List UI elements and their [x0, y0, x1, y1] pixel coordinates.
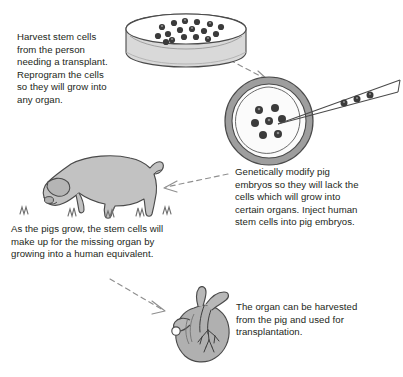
embryo-icon [225, 77, 313, 165]
caption-harvest-stem-cells: Harvest stem cells from the person needi… [17, 31, 149, 107]
pig-body [43, 156, 163, 218]
pig-illustration [18, 152, 184, 222]
pig-organ-stem-cell-diagram: Harvest stem cells from the person needi… [0, 0, 403, 377]
arrow-pig-to-heart [110, 279, 165, 314]
caption-organ-harvested: The organ can be harvested from the pig … [236, 301, 396, 339]
embryo-injection-illustration [222, 74, 403, 168]
heart-illustration [168, 286, 242, 366]
caption-modify-embryos: Genetically modify pig embryos so they w… [235, 166, 398, 229]
caption-pigs-grow: As the pigs grow, the stem cells will ma… [11, 223, 216, 261]
